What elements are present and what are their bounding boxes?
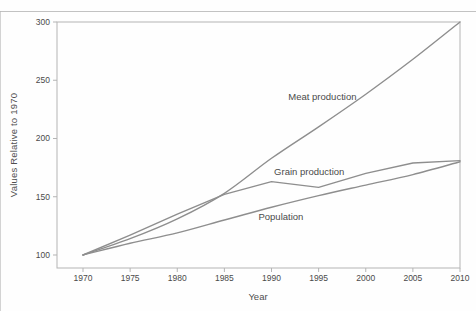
y-tick-label: 100 [36, 250, 50, 260]
y-tick-label: 250 [36, 75, 50, 85]
x-tick-label: 1980 [168, 273, 187, 283]
x-tick-label: 2005 [403, 273, 422, 283]
y-tick-label: 150 [36, 192, 50, 202]
x-tick-label: 1990 [262, 273, 281, 283]
x-tick-label: 2000 [356, 273, 375, 283]
x-axis-title: Year [248, 291, 267, 302]
plot-frame [57, 22, 460, 268]
y-axis-title: Values Relative to 1970 [8, 93, 19, 197]
series-label-grain-production: Grain production [274, 166, 344, 177]
x-tick-label: 1985 [215, 273, 234, 283]
line-chart-canvas: 1001502002503001970197519801985199019952… [0, 0, 476, 311]
x-tick-label: 1975 [121, 273, 140, 283]
x-tick-label: 1995 [309, 273, 328, 283]
series-line-population [83, 162, 460, 255]
y-tick-label: 200 [36, 133, 50, 143]
series-label-population: Population [258, 211, 303, 222]
chart-figure: 1001502002503001970197519801985199019952… [0, 0, 476, 311]
x-tick-label: 1970 [74, 273, 93, 283]
y-tick-label: 300 [36, 17, 50, 27]
x-tick-label: 2010 [451, 273, 470, 283]
series-label-meat-production: Meat production [288, 91, 356, 102]
